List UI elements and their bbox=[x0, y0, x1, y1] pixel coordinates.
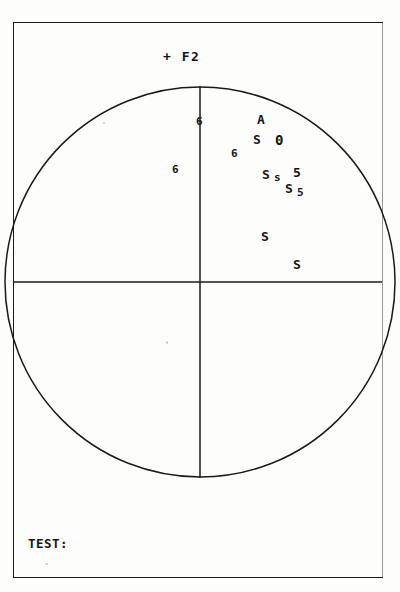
data-point-symbol: S bbox=[285, 182, 293, 195]
data-point-symbol: 0 bbox=[275, 133, 283, 147]
data-point-symbol: S bbox=[253, 133, 261, 146]
data-point-symbol: S bbox=[262, 168, 270, 181]
scan-speck bbox=[166, 341, 168, 344]
data-point-symbol: 6 bbox=[172, 164, 179, 175]
data-point-symbol: s bbox=[274, 172, 281, 183]
frame-right-edge-fade bbox=[381, 23, 384, 577]
data-point-symbol: 5 bbox=[293, 166, 301, 179]
data-point-symbol: A bbox=[257, 113, 265, 126]
scan-speck bbox=[103, 122, 105, 124]
caption-block: TEST: RWTH Aachen F * 12 Bogen F2 = 0.72… bbox=[28, 498, 253, 592]
f2-axis-label: + F2 bbox=[163, 50, 200, 63]
data-point-symbol: 5 bbox=[297, 187, 304, 198]
plot-frame-border bbox=[13, 22, 383, 578]
data-point-symbol: 6 bbox=[196, 116, 203, 127]
data-point-symbol: 6 bbox=[231, 148, 238, 159]
scan-speck bbox=[45, 563, 48, 565]
caption-line-test: TEST: bbox=[28, 535, 253, 554]
data-point-symbol: S bbox=[261, 230, 269, 243]
data-point-symbol: S bbox=[293, 258, 301, 271]
